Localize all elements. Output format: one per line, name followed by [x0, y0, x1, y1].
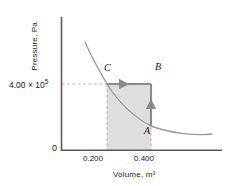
y-tick-mantissa: 4.00 × 10 — [9, 80, 45, 90]
y-tick-exponent: 5 — [45, 78, 49, 85]
state-label-a: A — [144, 126, 150, 136]
y-tick-label-4e5: 4.00 × 105 — [9, 81, 48, 90]
x-tick-label-0400: 0.400 — [134, 155, 154, 163]
x-axis-title: Volume, m³ — [113, 171, 155, 179]
state-label-c: C — [104, 63, 111, 73]
y-axis-title: Pressure, Pa — [31, 22, 39, 71]
pv-diagram-figure: Pressure, Pa Volume, m³ 4.00 × 105 0.200… — [0, 0, 235, 186]
x-tick-label-0200: 0.200 — [83, 155, 103, 163]
state-label-b: B — [155, 62, 161, 72]
origin-label: 0 — [52, 144, 57, 153]
